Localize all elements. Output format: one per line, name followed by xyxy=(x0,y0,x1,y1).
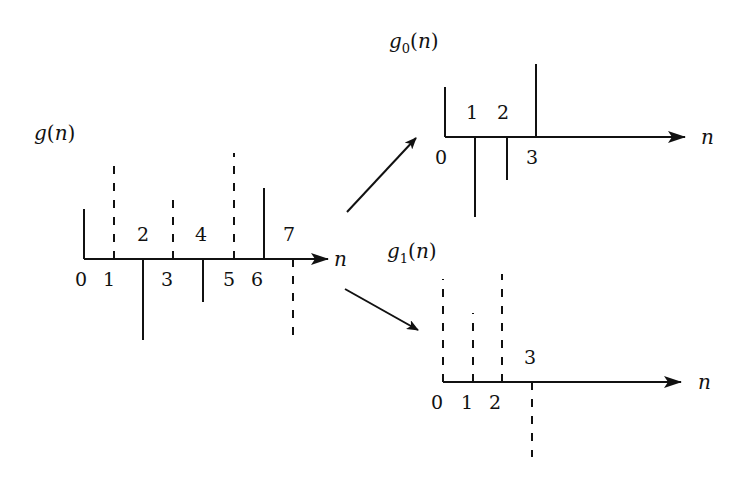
arrow-to-g1 xyxy=(345,289,418,330)
sample-index-label: 5 xyxy=(223,268,235,290)
sample-index-label: 4 xyxy=(195,223,207,245)
graph-title-g0: g0(n) xyxy=(389,29,439,56)
sample-index-label: 1 xyxy=(461,391,473,413)
sample-index-label: 6 xyxy=(251,268,263,290)
sample-index-label: 0 xyxy=(435,146,447,168)
sample-index-label: 7 xyxy=(283,223,295,245)
graph-title-g1: g1(n) xyxy=(387,239,437,266)
sample-index-label: 3 xyxy=(524,346,536,368)
sample-index-label: 3 xyxy=(526,146,538,168)
sample-index-label: 1 xyxy=(466,101,478,123)
graph-g-of-n: g(n)01234567n xyxy=(34,121,347,340)
axis-label-n: n xyxy=(698,370,711,394)
sample-index-label: 0 xyxy=(431,391,443,413)
arrow-to-g0 xyxy=(347,138,416,212)
graph-title-g: g(n) xyxy=(34,121,75,145)
sample-index-label: 2 xyxy=(489,391,501,413)
sample-index-label: 2 xyxy=(497,101,509,123)
graph-g1-of-n: g1(n)0123n xyxy=(387,239,711,457)
axis-label-n: n xyxy=(334,247,347,271)
sample-index-label: 1 xyxy=(103,268,115,290)
sample-index-label: 0 xyxy=(75,268,87,290)
graph-g0-of-n: g0(n)0123n xyxy=(389,29,714,217)
sample-index-label: 2 xyxy=(137,223,149,245)
sample-index-label: 3 xyxy=(161,268,173,290)
axis-label-n: n xyxy=(701,125,714,149)
polyphase-decomposition-diagram: g(n)01234567n g0(n)0123n g1(n)0123n xyxy=(0,0,754,484)
decomposition-arrows xyxy=(345,138,418,330)
